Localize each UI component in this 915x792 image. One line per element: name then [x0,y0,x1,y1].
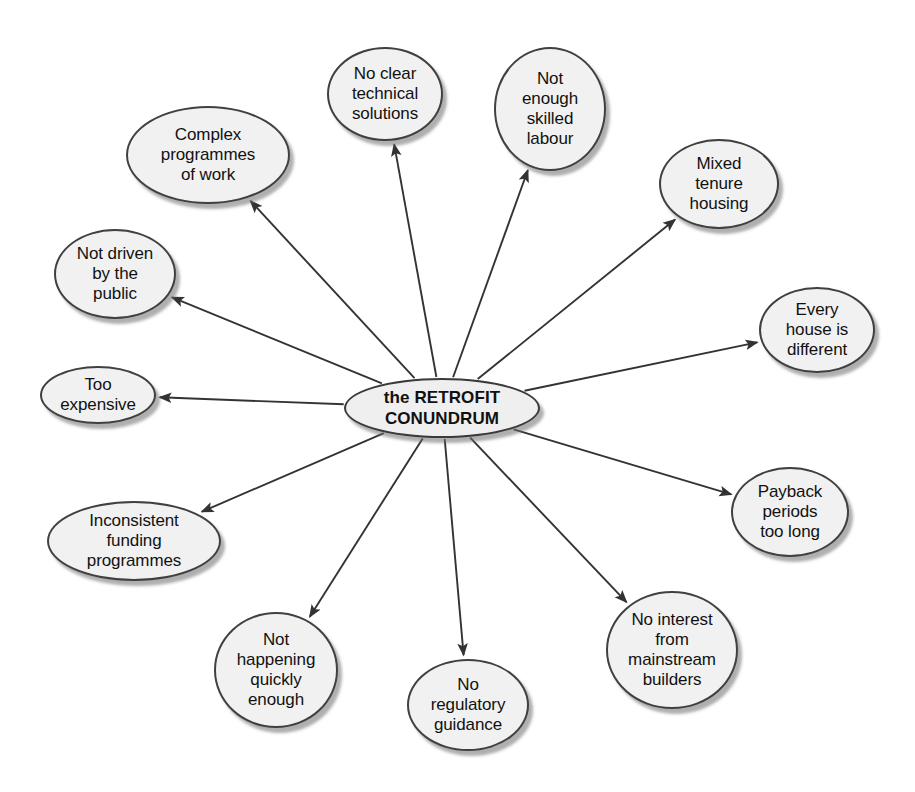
node-label-no-regulatory-guidance: Noregulatoryguidance [425,675,512,735]
node-too-expensive[interactable]: Tooexpensive [40,366,156,424]
node-not-driven-by-the-public[interactable]: Not drivenby thepublic [54,229,176,319]
edge-arrow-complex-programmes-of-work [251,201,415,378]
edge-arrow-mixed-tenure-housing [478,220,675,380]
edge-arrow-every-house-is-different [525,342,758,390]
node-label-no-interest-from-mainstream-builders: No interestfrommainstreambuilders [622,610,722,690]
edge-arrow-no-interest-from-mainstream-builders [470,438,626,602]
node-inconsistent-funding-programmes[interactable]: Inconsistentfundingprogrammes [47,501,221,581]
node-label-inconsistent-funding-programmes: Inconsistentfundingprogrammes [81,511,187,571]
edge-arrow-not-enough-skilled-labour [453,170,528,377]
node-label-not-driven-by-the-public: Not drivenby thepublic [71,244,159,304]
node-payback-periods-too-long[interactable]: Paybackperiodstoo long [731,467,849,557]
diagram-canvas: Complexprogrammesof workNo cleartechnica… [0,0,915,792]
center-node[interactable]: the RETROFIT CONUNDRUM [344,378,540,438]
edge-arrow-no-clear-technical-solutions [394,144,436,377]
edge-arrow-inconsistent-funding-programmes [202,433,384,512]
node-mixed-tenure-housing[interactable]: Mixedtenurehousing [659,139,779,229]
edge-arrow-no-regulatory-guidance [445,439,464,655]
node-not-enough-skilled-labour[interactable]: Notenoughskilledlabour [494,47,606,171]
edge-arrow-payback-periods-too-long [514,429,732,494]
node-no-interest-from-mainstream-builders[interactable]: No interestfrommainstreambuilders [606,591,738,709]
node-not-happening-quickly-enough[interactable]: Nothappeningquicklyenough [214,612,338,728]
node-label-complex-programmes-of-work: Complexprogrammesof work [155,125,261,185]
node-complex-programmes-of-work[interactable]: Complexprogrammesof work [126,106,290,204]
node-every-house-is-different[interactable]: Everyhouse isdifferent [759,287,875,373]
node-label-mixed-tenure-housing: Mixedtenurehousing [684,154,755,214]
node-label-not-happening-quickly-enough: Nothappeningquicklyenough [231,630,322,710]
node-label-no-clear-technical-solutions: No cleartechnicalsolutions [346,64,424,124]
edge-arrow-not-happening-quickly-enough [310,438,423,616]
center-node-label: the RETROFIT CONUNDRUM [346,387,538,430]
node-label-every-house-is-different: Everyhouse isdifferent [780,300,855,360]
edge-arrow-too-expensive [160,397,344,404]
node-label-payback-periods-too-long: Paybackperiodstoo long [752,482,829,542]
node-label-not-enough-skilled-labour: Notenoughskilledlabour [516,69,584,149]
node-no-regulatory-guidance[interactable]: Noregulatoryguidance [407,659,529,751]
node-label-too-expensive: Tooexpensive [54,375,142,415]
node-no-clear-technical-solutions[interactable]: No cleartechnicalsolutions [327,47,443,141]
